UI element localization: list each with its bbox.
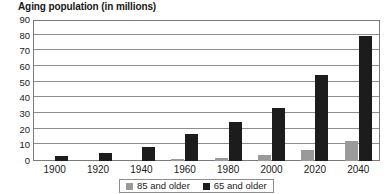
bar-65-and-older-1940 <box>142 147 155 161</box>
bar-group <box>41 20 68 161</box>
bar-group <box>345 20 372 161</box>
bar-65-and-older-1920 <box>99 153 112 161</box>
y-tick-label: 10 <box>19 141 30 151</box>
x-tick-label: 1920 <box>87 164 109 176</box>
bar-85-and-older-2020 <box>301 150 314 161</box>
bar-85-and-older-1980 <box>215 158 228 161</box>
y-tick-label: 90 <box>19 15 30 25</box>
legend-item: 85 and older <box>126 181 190 191</box>
legend-item: 65 and older <box>203 181 267 191</box>
y-tick-label: 0 <box>25 156 30 166</box>
x-tick-label: 2040 <box>347 164 369 176</box>
x-tick-label: 1940 <box>130 164 152 176</box>
aging-population-chart: Aging population (in millions) 908070605… <box>0 0 391 194</box>
x-axis: 19001920194019601980200020202040 <box>33 164 380 178</box>
chart-legend: 85 and older65 and older <box>119 179 274 193</box>
bar-group <box>258 20 285 161</box>
legend-swatch-icon <box>203 183 210 190</box>
bars-layer <box>33 20 380 161</box>
bar-65-and-older-1980 <box>229 122 242 161</box>
bar-85-and-older-2000 <box>258 155 271 161</box>
x-tick-label: 2000 <box>260 164 282 176</box>
bar-group <box>85 20 112 161</box>
bar-group <box>128 20 155 161</box>
y-tick-label: 80 <box>19 31 30 41</box>
y-tick-label: 20 <box>19 125 30 135</box>
bar-85-and-older-1960 <box>171 159 184 161</box>
y-tick-label: 30 <box>19 109 30 119</box>
x-tick-label: 1900 <box>44 164 66 176</box>
y-axis: 9080706050403020100 <box>0 20 30 161</box>
chart-title: Aging population (in millions) <box>18 1 156 12</box>
bar-65-and-older-2040 <box>359 36 372 161</box>
y-tick-label: 60 <box>19 62 30 72</box>
x-tick-label: 1980 <box>217 164 239 176</box>
y-tick-label: 50 <box>19 78 30 88</box>
x-tick-label: 1960 <box>174 164 196 176</box>
bar-65-and-older-1960 <box>185 134 198 161</box>
bar-85-and-older-2040 <box>345 141 358 161</box>
bar-65-and-older-2000 <box>272 108 285 161</box>
bar-65-and-older-2020 <box>315 75 328 161</box>
bar-65-and-older-1900 <box>55 156 68 161</box>
bar-group <box>215 20 242 161</box>
bar-group <box>171 20 198 161</box>
y-tick-label: 40 <box>19 94 30 104</box>
legend-label: 65 and older <box>214 181 267 191</box>
x-tick-label: 2020 <box>304 164 326 176</box>
bar-group <box>301 20 328 161</box>
legend-label: 85 and older <box>137 181 190 191</box>
legend-swatch-icon <box>126 183 133 190</box>
y-tick-label: 70 <box>19 47 30 57</box>
